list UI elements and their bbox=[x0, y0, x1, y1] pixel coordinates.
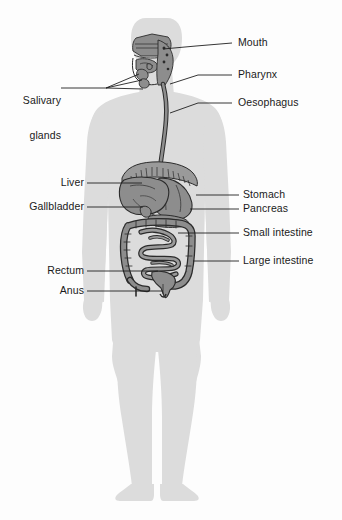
leader-salivary-a bbox=[106, 74, 139, 88]
label-salivary-glands: Salivary glands bbox=[0, 72, 61, 164]
sublingual-gland bbox=[147, 64, 152, 70]
leader-salivary-c bbox=[106, 88, 143, 89]
label-pancreas: Pancreas bbox=[243, 203, 288, 215]
label-stomach: Stomach bbox=[243, 189, 285, 201]
leader-pharynx bbox=[170, 75, 232, 84]
label-pharynx: Pharynx bbox=[238, 69, 277, 81]
label-salivary-glands-line2: glands bbox=[0, 130, 61, 142]
label-liver: Liver bbox=[0, 177, 84, 189]
label-anus: Anus bbox=[0, 285, 84, 297]
label-mouth: Mouth bbox=[238, 37, 268, 49]
label-oesophagus: Oesophagus bbox=[238, 97, 299, 109]
digestive-system-diagram: Mouth Pharynx Oesophagus Salivary glands… bbox=[0, 0, 342, 520]
label-salivary-glands-line1: Salivary bbox=[0, 95, 61, 107]
label-gallbladder: Gallbladder bbox=[0, 201, 84, 213]
label-large-intestine: Large intestine bbox=[243, 255, 313, 267]
label-small-intestine: Small intestine bbox=[243, 227, 313, 239]
leader-salivary-b bbox=[106, 80, 142, 88]
label-rectum: Rectum bbox=[0, 265, 84, 277]
